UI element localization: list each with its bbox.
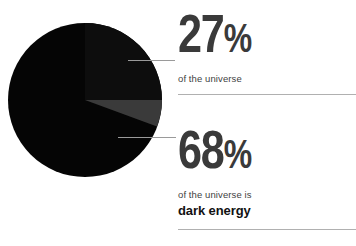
pie-chart: [7, 21, 163, 178]
stat-value-27: 27%: [178, 8, 320, 63]
percent-symbol-68: %: [224, 132, 252, 176]
stat-value-68: 68%: [178, 124, 320, 179]
pie-slice-dark-matter: [85, 23, 162, 100]
callout-68-line1: of the universe is: [178, 188, 356, 201]
callout-dark-energy: 68% of the universe is dark energy: [178, 124, 356, 219]
callout-column: 27% of the universe 68% of the universe …: [178, 0, 356, 246]
callout-27-line1: of the universe: [178, 72, 356, 85]
stat-number-27: 27: [178, 3, 224, 63]
leader-line-27: [128, 60, 175, 61]
leader-line-68: [118, 137, 176, 138]
percent-symbol-27: %: [224, 16, 252, 60]
pie-chart-svg: [7, 21, 163, 178]
stat-number-68: 68: [178, 119, 224, 179]
callout-68-line2: dark energy: [178, 203, 356, 219]
callout-dark-matter: 27% of the universe: [178, 8, 356, 85]
infographic-root: dark matter 27% of the universe 68% of: [0, 0, 356, 246]
